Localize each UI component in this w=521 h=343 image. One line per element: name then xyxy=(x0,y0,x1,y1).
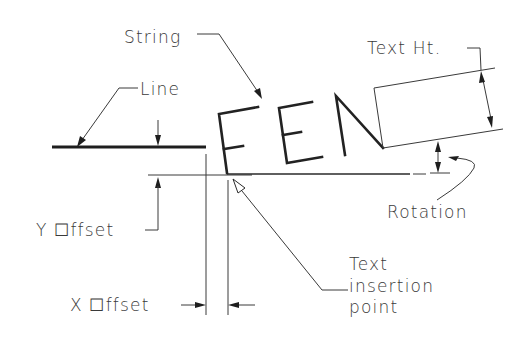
string-arrowhead-icon xyxy=(254,88,262,99)
line-arrowhead-icon xyxy=(77,136,86,147)
y-offset-upper-arrow xyxy=(155,120,161,146)
y-offset-callout: Y ☐ffset xyxy=(36,177,161,240)
insertion-label-line2: insertion xyxy=(349,276,434,296)
x-offset-right-arrowhead-icon xyxy=(195,302,206,308)
insertion-point-callout: Text insertion point xyxy=(233,179,434,317)
rotation-label: Rotation xyxy=(387,202,468,222)
y-offset-label: Y ☐ffset xyxy=(36,220,114,240)
text-height-up-arrowhead-icon xyxy=(479,71,485,83)
insertion-hollow-arrowhead-icon xyxy=(233,179,245,193)
rotation-down-arrowhead-icon xyxy=(435,162,441,173)
sample-string-fen xyxy=(219,96,383,173)
insertion-label-line3: point xyxy=(349,297,398,317)
text-height-label: Text Ht. xyxy=(367,38,441,58)
text-height-callout: Text Ht. xyxy=(367,38,493,128)
rotation-callout: Rotation xyxy=(387,141,475,222)
insertion-label-line1: Text xyxy=(349,254,388,274)
string-label: String xyxy=(124,27,181,47)
rotation-up-arrowhead-icon xyxy=(435,141,441,152)
line-label: Line xyxy=(140,79,180,99)
x-offset-label: X ☐ffset xyxy=(70,295,150,315)
x-offset-callout: X ☐ffset xyxy=(70,295,255,315)
x-offset-left-arrowhead-icon xyxy=(228,302,239,308)
text-parameters-diagram: Line Y ☐ffset X ☐ffset xyxy=(0,0,521,343)
text-height-down-arrowhead-icon xyxy=(487,116,493,128)
line-callout: Line xyxy=(77,79,180,147)
